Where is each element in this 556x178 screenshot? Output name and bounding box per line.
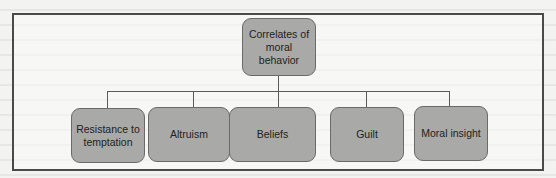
connector-child-5: [449, 91, 450, 106]
root-node-label: Correlates of moral behavior: [249, 28, 309, 67]
child-node-label: Moral insight: [421, 127, 481, 140]
child-node-label: Altruism: [170, 128, 208, 141]
child-node-resistance-to-temptation: Resistance to temptation: [71, 108, 145, 163]
connector-child-4: [366, 91, 367, 107]
connector-child-2: [193, 91, 194, 107]
child-node-moral-insight: Moral insight: [414, 106, 488, 161]
connector-child-1: [107, 91, 108, 108]
child-node-guilt: Guilt: [330, 107, 404, 162]
connector-root-vertical: [278, 76, 279, 92]
root-node-correlates-of-moral-behavior: Correlates of moral behavior: [242, 18, 316, 76]
child-node-label: Beliefs: [257, 128, 289, 141]
child-node-beliefs: Beliefs: [229, 107, 316, 162]
child-node-label: Guilt: [356, 128, 378, 141]
child-node-label: Resistance to temptation: [76, 123, 140, 149]
child-node-altruism: Altruism: [148, 107, 230, 162]
connector-child-3: [278, 91, 279, 107]
